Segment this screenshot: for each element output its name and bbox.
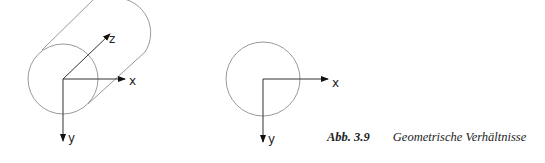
x-axis-label: x <box>332 76 339 90</box>
cylinder-back-arc <box>118 0 151 52</box>
z-axis-label: z <box>109 32 115 46</box>
y-axis-label: y <box>268 132 275 146</box>
figure-number: Abb. 3.9 <box>327 130 370 144</box>
left-axes <box>63 34 125 141</box>
cylinder-top-edge <box>42 0 95 50</box>
figure-caption-text: Geometrische Verhältnisse <box>393 130 526 144</box>
cylinder-bottom-edge <box>88 52 145 104</box>
figure-caption: Abb. 3.9 Geometrische Verhältnisse <box>327 130 526 145</box>
y-axis-label: y <box>68 131 75 145</box>
z-axis <box>63 34 110 79</box>
x-axis-label: x <box>129 74 136 88</box>
cylinder-diagram <box>28 0 151 114</box>
